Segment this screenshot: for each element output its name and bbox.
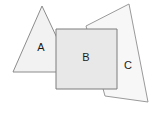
diagram-canvas: A C B bbox=[0, 0, 156, 113]
shapes-svg: A C B bbox=[0, 0, 156, 113]
shape-square-b[interactable] bbox=[56, 29, 117, 89]
